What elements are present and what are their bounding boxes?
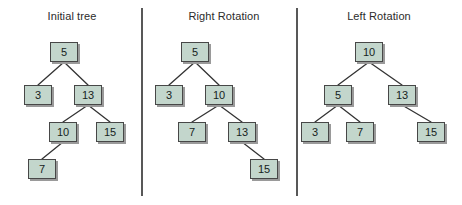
tree-node-initial-tree-7: 7: [28, 159, 56, 179]
panel-title-right-rotation: Right Rotation: [176, 10, 272, 22]
tree-edge-13-to-10: [63, 105, 88, 122]
panel-divider-1: [141, 8, 143, 196]
tree-edge-5-to-13: [64, 62, 88, 85]
panel-title-initial-tree: Initial tree: [27, 10, 117, 22]
tree-edge-5-to-3: [38, 62, 64, 85]
tree-edge-13-to-15: [88, 105, 110, 122]
tree-node-left-rotation-7: 7: [346, 122, 374, 142]
tree-node-initial-tree-3: 3: [24, 85, 52, 105]
tree-edge-13-to-15: [402, 105, 431, 122]
tree-node-left-rotation-5: 5: [324, 85, 352, 105]
tree-edge-10-to-13: [369, 62, 402, 85]
tree-edge-10-to-7: [192, 105, 219, 122]
tree-edge-13-to-15: [242, 142, 264, 159]
tree-node-right-rotation-15: 15: [250, 159, 278, 179]
tree-edge-5-to-3: [315, 105, 338, 122]
tree-node-initial-tree-15: 15: [96, 122, 124, 142]
tree-edge-10-to-7: [42, 142, 63, 159]
tree-node-left-rotation-10: 10: [355, 42, 383, 62]
tree-edge-5-to-3: [169, 62, 195, 85]
tree-node-left-rotation-13: 13: [388, 85, 416, 105]
panel-divider-2: [296, 8, 298, 196]
tree-node-left-rotation-3: 3: [301, 122, 329, 142]
tree-node-right-rotation-10: 10: [205, 85, 233, 105]
tree-node-initial-tree-10: 10: [49, 122, 77, 142]
tree-edge-5-to-7: [338, 105, 360, 122]
tree-edge-10-to-5: [338, 62, 369, 85]
tree-node-right-rotation-5: 5: [181, 42, 209, 62]
tree-edge-10-to-13: [219, 105, 242, 122]
tree-node-initial-tree-5: 5: [50, 42, 78, 62]
panel-title-left-rotation: Left Rotation: [333, 10, 425, 22]
tree-node-right-rotation-3: 3: [155, 85, 183, 105]
tree-node-initial-tree-13: 13: [74, 85, 102, 105]
tree-node-right-rotation-13: 13: [228, 122, 256, 142]
rotation-diagram-figure: Initial tree Right Rotation Left Rotatio…: [0, 0, 462, 205]
tree-node-right-rotation-7: 7: [178, 122, 206, 142]
tree-edge-5-to-10: [195, 62, 219, 85]
tree-node-left-rotation-15: 15: [417, 122, 445, 142]
